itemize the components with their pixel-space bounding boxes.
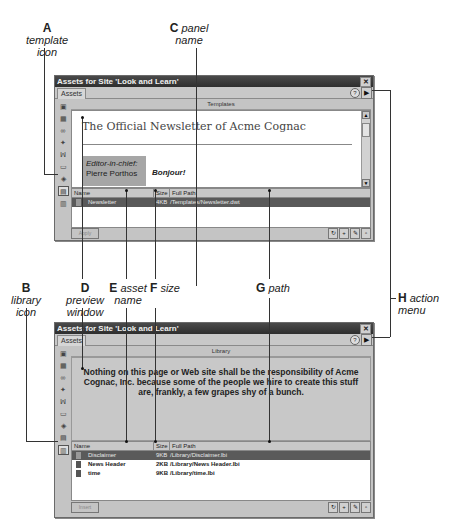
list-header: Name Size Full Path <box>72 189 370 198</box>
colors-icon[interactable]: ▦ <box>58 361 68 370</box>
images-icon[interactable]: ▣ <box>58 102 68 111</box>
flash-icon[interactable]: ✦ <box>58 138 68 147</box>
title-bar[interactable]: Assets for Site 'Look and Learn' ✕ <box>55 323 373 334</box>
close-button[interactable]: ✕ <box>360 324 371 334</box>
leader-line <box>44 48 45 174</box>
action-menu-button[interactable]: ▶ <box>361 334 372 346</box>
window-title: Assets for Site 'Look and Learn' <box>57 324 179 333</box>
callout-letter: B <box>22 281 31 295</box>
callout-text: path <box>268 282 289 294</box>
leader-dot <box>125 189 128 192</box>
scroll-thumb[interactable] <box>362 123 370 137</box>
panel-name: Library <box>71 346 371 357</box>
close-button[interactable]: ✕ <box>360 77 371 87</box>
images-icon[interactable]: ▣ <box>58 349 68 358</box>
help-icon[interactable]: ? <box>350 335 360 345</box>
shockwave-icon[interactable]: ꟽ <box>58 397 68 406</box>
urls-icon[interactable]: ∞ <box>58 373 68 382</box>
callout-letter: E <box>109 281 117 295</box>
list-item[interactable]: time 9KB /Library/time.lbi <box>72 469 370 478</box>
editor-name: Pierre Porthos <box>86 169 142 179</box>
column-size[interactable]: Size <box>154 442 170 450</box>
colors-icon[interactable]: ▦ <box>58 114 68 123</box>
list-item[interactable]: News Header 2KB /Library/News Header.lbi <box>72 460 370 469</box>
leader-line <box>82 308 83 368</box>
column-name[interactable]: Name <box>72 442 154 450</box>
refresh-icon[interactable]: ↻ <box>328 502 338 513</box>
leader-line <box>269 190 270 279</box>
title-bar[interactable]: Assets for Site 'Look and Learn' ✕ <box>55 76 373 87</box>
new-icon[interactable]: + <box>339 228 349 239</box>
editor-label: Editor-in-chief: <box>86 159 142 169</box>
list-item[interactable]: Newsletter 4KB /Templates/Newsletter.dwt <box>72 198 370 207</box>
delete-icon[interactable]: ▫ <box>361 502 371 513</box>
templates-icon[interactable]: ▤ <box>58 433 68 442</box>
asset-name: Newsletter <box>88 198 116 207</box>
preview-window: The Official Newsletter of Acme Cognac E… <box>71 110 371 188</box>
scripts-icon[interactable]: ◈ <box>58 421 68 430</box>
template-heading: The Official Newsletter of Acme Cognac <box>82 120 306 133</box>
preview-window: Nothing on this page or Web site shall b… <box>71 357 371 441</box>
callout-letter: C <box>170 21 179 35</box>
action-menu-button[interactable]: ▶ <box>361 87 372 99</box>
movies-icon[interactable]: ▭ <box>58 162 68 171</box>
asset-path: /Library/Disclaimer.lbi <box>170 451 227 460</box>
library-item-icon <box>76 452 81 459</box>
flash-icon[interactable]: ✦ <box>58 385 68 394</box>
preview-scrollbar[interactable]: ▲ ▼ <box>361 111 370 187</box>
asset-size: 9KB <box>156 469 168 478</box>
callout-template-icon: A template icon <box>22 22 72 58</box>
callout-text: size <box>160 282 180 294</box>
panel-footer: Insert ↻ + ✎ ▫ <box>71 501 371 513</box>
help-icon[interactable]: ? <box>350 88 360 98</box>
leader-line <box>26 308 27 441</box>
urls-icon[interactable]: ∞ <box>58 126 68 135</box>
scroll-down-icon[interactable]: ▼ <box>362 179 370 187</box>
leader-line <box>126 308 127 441</box>
assets-panel-templates: Assets for Site 'Look and Learn' ✕ Asset… <box>54 75 374 241</box>
tab-row: Assets ? ▶ <box>55 334 373 346</box>
leader-dot <box>154 440 157 443</box>
callout-text: preview window <box>66 294 104 318</box>
tab-assets[interactable]: Assets <box>57 88 86 99</box>
library-icon[interactable]: ▥ <box>58 445 69 455</box>
callout-asset-name: E asset name <box>108 282 148 306</box>
leader-line <box>390 90 391 337</box>
column-name[interactable]: Name <box>72 189 154 197</box>
callout-letter: G <box>256 281 265 295</box>
tab-row: Assets ? ▶ <box>55 87 373 99</box>
apply-button[interactable]: Apply <box>71 228 99 239</box>
callout-text: template icon <box>26 34 68 58</box>
scripts-icon[interactable]: ◈ <box>58 174 68 183</box>
panel-name: Templates <box>71 99 371 110</box>
callout-path: G path <box>256 282 296 294</box>
insert-button[interactable]: Insert <box>71 502 99 513</box>
column-path[interactable]: Full Path <box>170 442 370 450</box>
new-icon[interactable]: + <box>339 502 349 513</box>
templates-icon[interactable]: ▤ <box>58 186 69 196</box>
callout-letter: D <box>81 281 90 295</box>
leader-line <box>155 190 156 279</box>
leader-line <box>44 174 58 175</box>
movies-icon[interactable]: ▭ <box>58 409 68 418</box>
edit-icon[interactable]: ✎ <box>350 502 360 513</box>
asset-name: News Header <box>88 460 126 469</box>
leader-line <box>82 117 83 279</box>
callout-size: F size <box>150 282 190 294</box>
leader-line <box>155 308 156 441</box>
edit-icon[interactable]: ✎ <box>350 228 360 239</box>
leader-dot <box>125 440 128 443</box>
library-item-icon <box>76 470 81 477</box>
delete-icon[interactable]: ▫ <box>361 228 371 239</box>
asset-category-sidebar: ▣ ▦ ∞ ✦ ꟽ ▭ ◈ ▤ ▥ <box>57 349 69 458</box>
leader-line <box>372 90 390 91</box>
library-icon[interactable]: ▥ <box>58 199 68 208</box>
leader-dot <box>268 189 271 192</box>
list-header: Name Size Full Path <box>72 442 370 451</box>
callout-letter: A <box>43 21 52 35</box>
window-title: Assets for Site 'Look and Learn' <box>57 77 179 86</box>
list-item[interactable]: Disclaimer 9KB /Library/Disclaimer.lbi <box>72 451 370 460</box>
shockwave-icon[interactable]: ꟽ <box>58 150 68 159</box>
scroll-up-icon[interactable]: ▲ <box>362 111 370 119</box>
refresh-icon[interactable]: ↻ <box>328 228 338 239</box>
